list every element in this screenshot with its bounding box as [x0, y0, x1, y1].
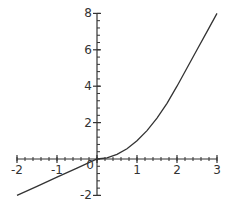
function-curve: [17, 13, 217, 195]
y-tick-label: 8: [84, 6, 92, 20]
x-tick-label: 2: [173, 163, 181, 177]
y-tick-label: -2: [80, 188, 92, 202]
x-tick-label: 3: [213, 163, 221, 177]
y-tick-label: 2: [84, 116, 92, 130]
y-tick-label: 4: [84, 79, 92, 93]
x-tick-label: -2: [11, 163, 23, 177]
x-tick-label: 0: [86, 158, 94, 172]
y-tick-label: 6: [84, 43, 92, 57]
minor-ticks: [17, 13, 217, 195]
axes: [17, 13, 217, 195]
plot-area: -2-10123-22468: [0, 0, 235, 219]
major-ticks: [17, 13, 217, 195]
tick-labels: -2-10123-22468: [11, 6, 221, 202]
x-tick-label: 1: [133, 163, 141, 177]
